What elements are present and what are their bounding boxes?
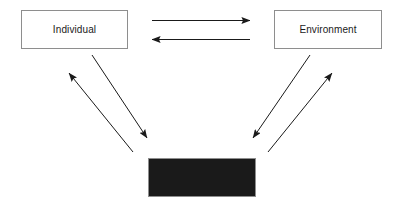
node-environment[interactable]: Environment — [274, 10, 382, 49]
node-environment-label: Environment — [299, 24, 356, 36]
node-individual[interactable]: Individual — [21, 10, 128, 49]
node-individual-label: Individual — [53, 24, 96, 36]
node-behaviour-label: Behaviour — [179, 172, 225, 184]
diagram-canvas: Individual Environment Behaviour — [0, 0, 399, 207]
node-behaviour[interactable]: Behaviour — [148, 158, 256, 197]
arrow-environment-to-behaviour — [253, 55, 310, 138]
arrow-individual-to-behaviour — [92, 55, 147, 138]
arrow-behaviour-to-environment — [268, 73, 332, 152]
arrow-behaviour-to-individual — [69, 73, 133, 152]
